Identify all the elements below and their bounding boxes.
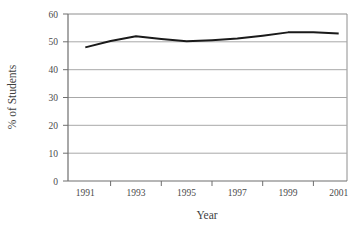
x-tick-label-1999: 1999 [279, 188, 298, 198]
x-tick-label-1997: 1997 [228, 188, 247, 198]
x-tick-label-1991: 1991 [76, 188, 95, 198]
y-tick-label-30: 30 [49, 93, 59, 103]
chart-container: 60 50 40 30 20 10 0 1991 1993 1995 1997 … [0, 0, 360, 228]
x-tick-label-1995: 1995 [177, 188, 196, 198]
line-chart: 60 50 40 30 20 10 0 1991 1993 1995 1997 … [0, 0, 360, 228]
y-tick-label-40: 40 [49, 65, 59, 75]
y-tick-label-60: 60 [49, 10, 59, 20]
x-tick-label-1993: 1993 [127, 188, 146, 198]
y-axis-title: % of Students [6, 64, 18, 129]
y-tick-label-10: 10 [49, 149, 59, 159]
x-tick-label-2001: 2001 [329, 188, 348, 198]
y-tick-label-0: 0 [53, 177, 58, 187]
x-axis-title: Year [196, 209, 217, 221]
y-tick-label-50: 50 [49, 37, 59, 47]
y-tick-label-20: 20 [49, 121, 59, 131]
